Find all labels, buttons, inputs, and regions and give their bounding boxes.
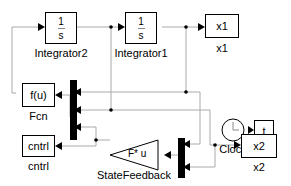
integrator2-denominator: s: [59, 30, 64, 41]
x1-output-block[interactable]: x1: [205, 14, 239, 38]
x1-label: x1: [205, 42, 239, 54]
integrator1-label: Integrator1: [110, 47, 172, 59]
cntrl-output-block[interactable]: cntrl: [22, 135, 55, 157]
fcn-block[interactable]: f(u): [22, 83, 55, 107]
mux2-block[interactable]: [178, 138, 185, 178]
integrator2-numerator: 1: [58, 16, 64, 27]
x2-label: x2: [241, 161, 277, 173]
fcn-label: Fcn: [22, 110, 55, 122]
integrator1-numerator: 1: [138, 16, 144, 27]
mux1-block[interactable]: [70, 80, 77, 140]
integrator1-block[interactable]: 1s: [125, 12, 157, 44]
diagram-canvas: 1s Integrator2 1s Integrator1 x1 x1 Cloc…: [0, 0, 291, 186]
integrator2-block[interactable]: 1s: [45, 12, 77, 44]
state-feedback-label: StateFeedback: [92, 169, 176, 181]
integrator2-label: Integrator2: [30, 47, 92, 59]
cntrl-label: cntrl: [22, 160, 55, 172]
integrator1-denominator: s: [139, 30, 144, 41]
state-feedback-gain-block[interactable]: [110, 140, 158, 170]
x2-output-block[interactable]: x2: [241, 134, 277, 158]
